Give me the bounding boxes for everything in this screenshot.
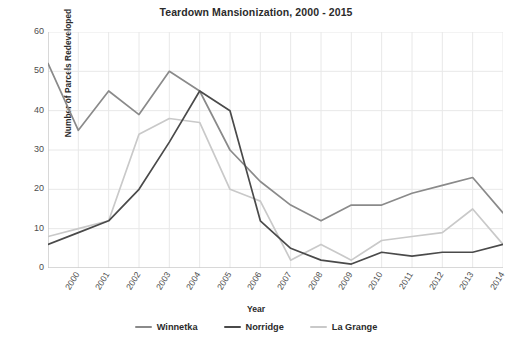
legend-label: La Grange — [332, 322, 377, 332]
x-tick-label: 2001 — [93, 270, 112, 292]
y-tick-label: 40 — [4, 106, 44, 115]
x-tick-label: 2000 — [63, 270, 82, 292]
legend-swatch-icon — [135, 326, 152, 329]
y-tick-label: 0 — [4, 263, 44, 272]
legend-item-la-grange[interactable]: La Grange — [310, 322, 377, 332]
x-tick-label: 2014 — [488, 270, 507, 292]
x-tick-label: 2003 — [154, 270, 173, 292]
gridlines — [48, 32, 503, 268]
line-chart-svg — [48, 32, 503, 268]
x-tick-label: 2005 — [215, 270, 234, 292]
chart-legend: WinnetkaNorridgeLa Grange — [0, 322, 512, 332]
x-tick-label: 2008 — [306, 270, 325, 292]
x-tick-label: 2009 — [336, 270, 355, 292]
y-tick-label: 30 — [4, 145, 44, 154]
y-tick-label: 10 — [4, 224, 44, 233]
series-line-norridge — [48, 91, 503, 264]
plot-area — [48, 32, 503, 268]
x-tick-label: 2004 — [184, 270, 203, 292]
x-axis-title: Year — [0, 304, 512, 314]
x-tick-label: 2011 — [396, 270, 414, 291]
x-tick-label: 2013 — [457, 270, 476, 292]
x-tick-label: 2002 — [124, 270, 143, 292]
y-axis-tick-labels: 0102030405060 — [0, 32, 44, 268]
x-tick-label: 2007 — [275, 270, 294, 292]
legend-item-norridge[interactable]: Norridge — [224, 322, 284, 332]
y-tick-label: 50 — [4, 66, 44, 75]
legend-swatch-icon — [310, 326, 327, 329]
series-lines — [48, 63, 503, 264]
chart-container: Teardown Mansionization, 2000 - 2015 Num… — [0, 0, 512, 347]
y-tick-label: 20 — [4, 184, 44, 193]
x-tick-label: 2010 — [366, 270, 385, 292]
legend-label: Norridge — [246, 322, 284, 332]
x-tick-label: 2012 — [427, 270, 446, 292]
legend-label: Winnetka — [157, 322, 198, 332]
y-tick-label: 60 — [4, 27, 44, 36]
legend-item-winnetka[interactable]: Winnetka — [135, 322, 198, 332]
legend-swatch-icon — [224, 326, 241, 329]
x-tick-label: 2006 — [245, 270, 264, 292]
chart-title: Teardown Mansionization, 2000 - 2015 — [0, 6, 512, 18]
